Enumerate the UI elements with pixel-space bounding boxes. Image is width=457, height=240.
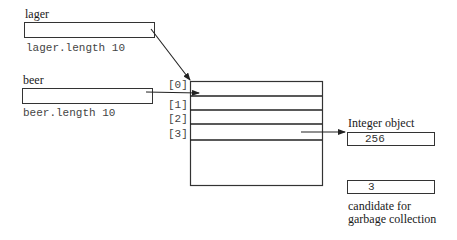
- diagram-lines: [0, 0, 457, 240]
- array-object: [190, 82, 323, 186]
- lager-reference-arrow: [151, 29, 190, 80]
- reference-diagram: lager lager.length 10 beer beer.length 1…: [0, 0, 457, 240]
